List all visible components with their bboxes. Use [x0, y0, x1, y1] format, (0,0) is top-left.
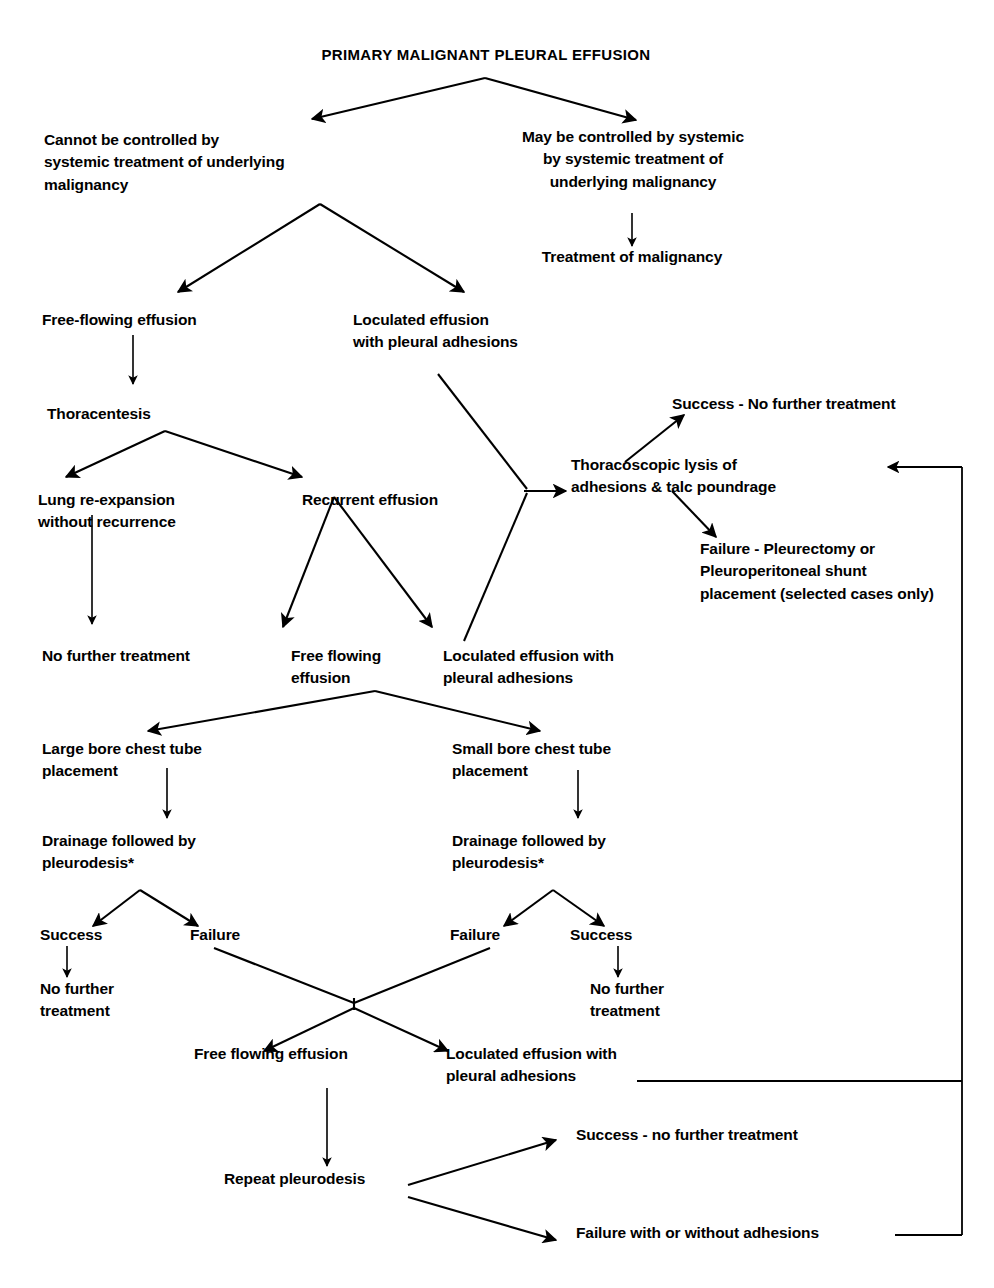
node-loculated-effusion-3: Loculated effusion with pleural adhesion…	[446, 1043, 676, 1088]
node-repeat-failure: Failure with or without adhesions	[576, 1222, 906, 1244]
edge-drainage-right-to-failure	[504, 890, 553, 926]
node-small-bore-chest-tube: Small bore chest tube placement	[452, 738, 692, 783]
node-repeat-pleurodesis: Repeat pleurodesis	[224, 1168, 424, 1190]
edge-free-flowing2-to-small-bore	[375, 691, 540, 731]
edge-recurrent-to-loculated2	[334, 497, 432, 627]
edge-title-to-cannot-control	[312, 78, 485, 119]
node-recurrent-effusion: Recurrent effusion	[302, 489, 512, 511]
node-loculated-effusion-1: Loculated effusion with pleural adhesion…	[353, 309, 593, 354]
node-repeat-success: Success - no further treatment	[576, 1124, 896, 1146]
edge-repeat-to-success	[408, 1140, 556, 1185]
edge-drainage-right-to-success	[553, 890, 604, 926]
node-failure-left: Failure	[190, 924, 300, 946]
node-free-flowing-effusion-3: Free flowing effusion	[194, 1043, 424, 1065]
node-thoracentesis: Thoracentesis	[47, 403, 247, 425]
node-no-further-treatment-right: No further treatment	[590, 978, 740, 1023]
node-free-flowing-effusion-1: Free-flowing effusion	[42, 309, 282, 331]
node-thoracoscopic-lysis: Thoracoscopic lysis of adhesions & talc …	[571, 454, 891, 499]
edge-failure-left-to-cross	[214, 948, 354, 1003]
edge-recurrent-to-free-flowing2	[283, 497, 334, 627]
edge-failure-right-to-cross	[354, 948, 490, 1003]
node-loculated-effusion-2: Loculated effusion with pleural adhesion…	[443, 645, 673, 690]
edge-thoracentesis-to-lung-reexpansion	[66, 431, 165, 477]
node-lysis-failure: Failure - Pleurectomy or Pleuroperitonea…	[700, 538, 990, 605]
node-may-be-controlled: May be controlled by systemic by systemi…	[478, 126, 788, 193]
node-lysis-success: Success - No further treatment	[672, 393, 972, 415]
node-lung-re-expansion: Lung re-expansion without recurrence	[38, 489, 238, 534]
edge-drainage-left-to-success	[93, 890, 140, 926]
node-drainage-pleurodesis-right: Drainage followed by pleurodesis*	[452, 830, 692, 875]
node-large-bore-chest-tube: Large bore chest tube placement	[42, 738, 282, 783]
node-success-left: Success	[40, 924, 150, 946]
edge-drainage-left-to-failure	[140, 890, 198, 926]
node-success-right: Success	[570, 924, 680, 946]
diagram-title: PRIMARY MALIGNANT PLEURAL EFFUSION	[236, 44, 736, 66]
node-free-flowing-effusion-2: Free flowing effusion	[291, 645, 451, 690]
node-no-further-treatment-1: No further treatment	[42, 645, 282, 667]
edge-free-flowing2-to-large-bore	[148, 691, 375, 731]
node-failure-right: Failure	[450, 924, 560, 946]
edge-loculated2-to-junction	[464, 493, 527, 641]
edge-cannot-to-free-flowing	[178, 204, 320, 292]
edge-cannot-to-loculated	[320, 204, 464, 292]
node-drainage-pleurodesis-left: Drainage followed by pleurodesis*	[42, 830, 282, 875]
node-cannot-be-controlled: Cannot be controlled by systemic treatme…	[44, 129, 344, 196]
edge-loculated1-to-junction	[438, 374, 527, 489]
node-no-further-treatment-left: No further treatment	[40, 978, 190, 1023]
edge-title-to-may-control	[485, 78, 636, 120]
node-treatment-of-malignancy: Treatment of malignancy	[492, 246, 772, 268]
edge-thoracentesis-to-recurrent	[165, 431, 302, 477]
edge-repeat-to-failure	[408, 1197, 556, 1240]
flowchart-canvas: PRIMARY MALIGNANT PLEURAL EFFUSION Canno…	[0, 0, 994, 1288]
